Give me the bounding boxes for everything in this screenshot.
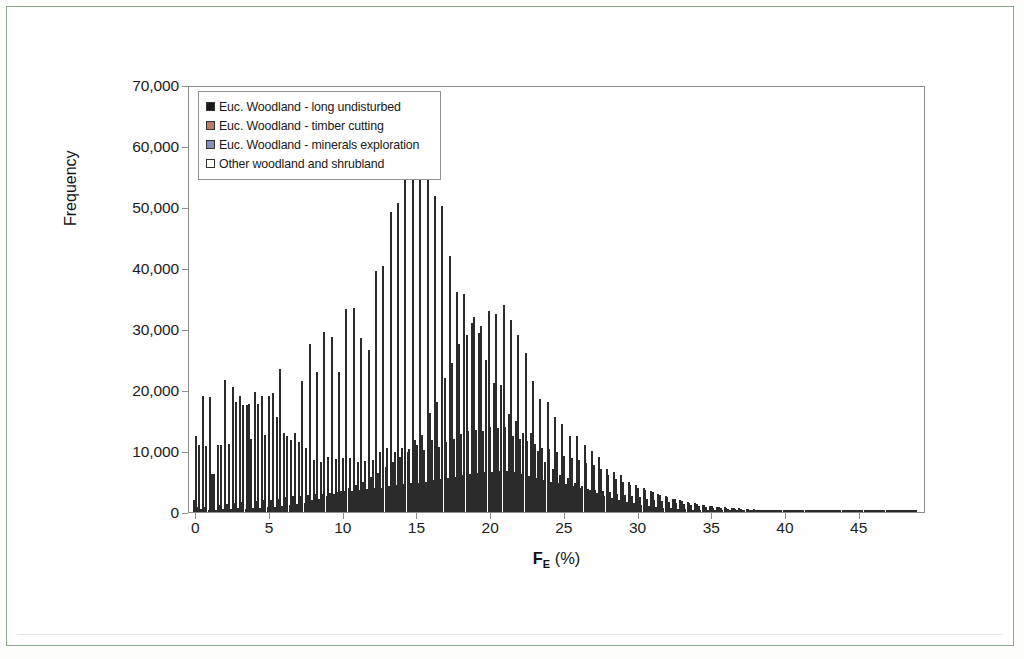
- bar-group: [900, 87, 907, 512]
- bar-group: [554, 87, 561, 512]
- bar-group: [849, 87, 856, 512]
- y-axis-tick-label: 10,000: [132, 443, 179, 461]
- bar-group: [591, 87, 598, 512]
- y-axis-tick-label: 0: [170, 504, 179, 522]
- x-axis-tick-mark: [638, 513, 639, 519]
- x-axis-tick-mark: [785, 513, 786, 519]
- bar-group: [694, 87, 701, 512]
- bar-group: [576, 87, 583, 512]
- bar-group: [495, 87, 502, 512]
- bar-group: [458, 87, 465, 512]
- bar-group: [517, 87, 524, 512]
- y-axis-tick-label: 50,000: [132, 199, 179, 217]
- bar-group: [679, 87, 686, 512]
- bar-group: [466, 87, 473, 512]
- bar-group: [790, 87, 797, 512]
- y-axis-tick-mark: [182, 330, 188, 331]
- x-axis-tick-label: 5: [265, 519, 274, 537]
- bar-series-1: [232, 387, 234, 512]
- y-axis-tick-mark: [182, 513, 188, 514]
- bar-group: [746, 87, 753, 512]
- bar-series-1: [195, 436, 197, 512]
- bar-group: [569, 87, 576, 512]
- bar-group: [702, 87, 709, 512]
- x-axis-tick-label: 40: [776, 519, 793, 537]
- bar-group: [665, 87, 672, 512]
- legend-swatch-icon: [206, 140, 215, 149]
- x-axis-tick-label: 30: [629, 519, 646, 537]
- bar-group: [760, 87, 767, 512]
- legend-item: Euc. Woodland - timber cutting: [206, 116, 434, 135]
- bar-group: [768, 87, 775, 512]
- y-axis-tick-mark: [182, 208, 188, 209]
- bar-chart-figure: Frequency 010,00020,00030,00040,00050,00…: [7, 7, 1015, 647]
- bar-group: [908, 87, 915, 512]
- bar-group: [834, 87, 841, 512]
- x-axis-title-base: F: [533, 549, 543, 567]
- legend-label: Other woodland and shrubland: [219, 157, 384, 171]
- y-axis-tick-label: 40,000: [132, 260, 179, 278]
- bar-series-1: [217, 445, 219, 512]
- x-axis-tick-label: 10: [334, 519, 351, 537]
- scan-artifact-line: [17, 634, 1003, 635]
- legend-swatch-icon: [206, 159, 215, 168]
- bar-series-1: [254, 392, 256, 512]
- legend-item: Other woodland and shrubland: [206, 154, 434, 173]
- y-axis-tick-label: 70,000: [132, 77, 179, 95]
- bar-group: [532, 87, 539, 512]
- x-axis-tick-mark: [416, 513, 417, 519]
- bar-group: [893, 87, 900, 512]
- bar-group: [598, 87, 605, 512]
- bar-group: [672, 87, 679, 512]
- bar-group: [915, 87, 922, 512]
- bar-group: [783, 87, 790, 512]
- bar-group: [775, 87, 782, 512]
- x-axis-tick-mark: [195, 513, 196, 519]
- bar-group: [451, 87, 458, 512]
- bar-group: [584, 87, 591, 512]
- bar-group: [650, 87, 657, 512]
- bar-group: [805, 87, 812, 512]
- scanned-page-frame: Frequency 010,00020,00030,00040,00050,00…: [6, 6, 1014, 646]
- bar-group: [547, 87, 554, 512]
- x-axis-tick-labels: 051015202530354045: [188, 519, 925, 545]
- y-axis-tick-label: 60,000: [132, 138, 179, 156]
- y-axis-tick-mark: [182, 147, 188, 148]
- y-axis-tick-mark: [182, 452, 188, 453]
- bar-group: [657, 87, 664, 512]
- x-axis-tick-label: 20: [482, 519, 499, 537]
- bar-group: [687, 87, 694, 512]
- bar-group: [643, 87, 650, 512]
- bar-group: [444, 87, 451, 512]
- x-axis-tick-mark: [269, 513, 270, 519]
- bar-group: [827, 87, 834, 512]
- y-axis-tick-label: 20,000: [132, 382, 179, 400]
- x-axis-tick-label: 15: [408, 519, 425, 537]
- y-axis-tick-labels: 010,00020,00030,00040,00050,00060,00070,…: [87, 86, 179, 513]
- bar-group: [871, 87, 878, 512]
- x-axis-title-subscript: E: [543, 558, 550, 570]
- bar-group: [878, 87, 885, 512]
- bar-group: [473, 87, 480, 512]
- bar-group: [525, 87, 532, 512]
- x-axis-tick-mark: [564, 513, 565, 519]
- legend-label: Euc. Woodland - long undisturbed: [219, 100, 401, 114]
- x-axis-tick-mark: [859, 513, 860, 519]
- bar-group: [635, 87, 642, 512]
- bar-series-1: [239, 396, 241, 512]
- bar-group: [738, 87, 745, 512]
- x-axis-tick-label: 25: [555, 519, 572, 537]
- bar-series-1: [202, 396, 204, 512]
- y-axis-title: Frequency: [62, 202, 80, 226]
- bar-group: [797, 87, 804, 512]
- bar-group: [856, 87, 863, 512]
- bar-group: [819, 87, 826, 512]
- bar-group: [709, 87, 716, 512]
- legend-swatch-icon: [206, 121, 215, 130]
- bar-group: [539, 87, 546, 512]
- x-axis-tick-mark: [490, 513, 491, 519]
- bar-series-0: [915, 510, 917, 512]
- bar-series-1: [224, 380, 226, 512]
- legend-label: Euc. Woodland - timber cutting: [219, 119, 384, 133]
- page-background: Frequency 010,00020,00030,00040,00050,00…: [7, 7, 1013, 645]
